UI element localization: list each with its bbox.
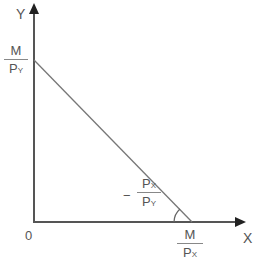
- y-axis-arrow-icon: [29, 3, 39, 14]
- slope-numerator: PX: [137, 177, 161, 193]
- slope-denominator: PY: [137, 193, 161, 208]
- x-axis-label: X: [243, 231, 252, 245]
- y-axis-label: Y: [16, 7, 25, 21]
- budget-line-diagram: [0, 0, 258, 257]
- origin-label: 0: [25, 229, 32, 242]
- x-intercept-numerator: M: [177, 228, 203, 244]
- y-intercept-label: M PY: [4, 44, 28, 75]
- slope-label: PX PY: [137, 177, 161, 208]
- y-intercept-denominator: PY: [4, 60, 28, 75]
- slope-angle-arc: [174, 209, 180, 222]
- x-intercept-label: M PX: [177, 228, 203, 257]
- y-intercept-numerator: M: [4, 44, 28, 60]
- x-axis-arrow-icon: [235, 217, 246, 227]
- slope-sign: −: [123, 189, 131, 202]
- budget-line: [34, 60, 192, 222]
- x-intercept-denominator: PX: [177, 244, 203, 257]
